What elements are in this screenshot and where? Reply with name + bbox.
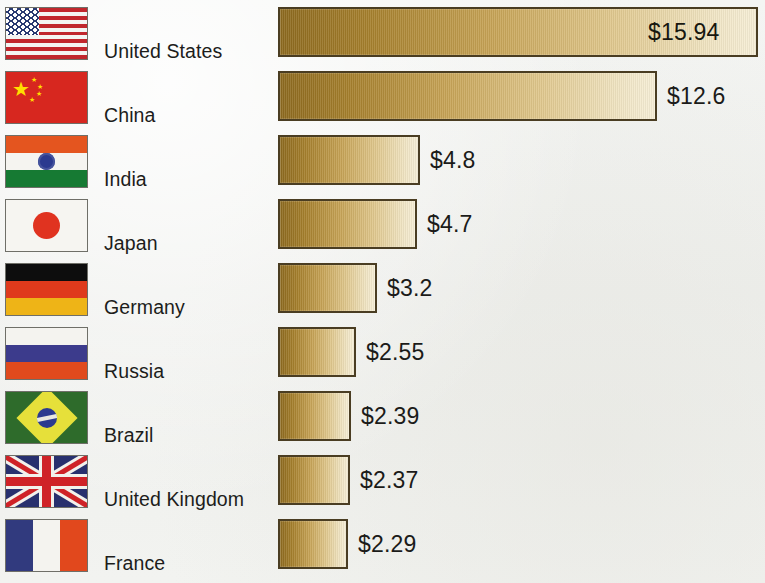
country-label: United Kingdom	[104, 488, 244, 511]
country-label: Japan	[104, 232, 158, 255]
value-label: $2.39	[361, 403, 420, 430]
chart-row: United States$15.94	[0, 6, 765, 70]
chart-row: Russia$2.55	[0, 326, 765, 390]
flag-japan-icon	[5, 199, 88, 252]
value-label: $12.6	[667, 83, 726, 110]
country-label: China	[104, 104, 155, 127]
value-label: $4.7	[427, 211, 473, 238]
country-label: India	[104, 168, 147, 191]
value-bar	[278, 135, 420, 185]
value-bar	[278, 519, 348, 569]
flag-russia-icon	[5, 327, 88, 380]
chart-row: India$4.8	[0, 134, 765, 198]
chart-row: ★★★★★China$12.6	[0, 70, 765, 134]
flag-india-icon	[5, 135, 88, 188]
country-label: United States	[104, 40, 222, 63]
value-bar	[278, 71, 657, 121]
value-label: $3.2	[387, 275, 433, 302]
chart-row: United Kingdom$2.37	[0, 454, 765, 518]
flag-brazil-icon	[5, 391, 88, 444]
country-label: Russia	[104, 360, 164, 383]
flag-france-icon	[5, 519, 88, 572]
chart-row: Germany$3.2	[0, 262, 765, 326]
chart-row: Brazil$2.39	[0, 390, 765, 454]
value-label: $2.29	[358, 531, 417, 558]
country-value-bar-chart: United States$15.94★★★★★China$12.6India$…	[0, 0, 765, 583]
flag-united-states-icon	[5, 7, 88, 60]
value-bar	[278, 263, 377, 313]
chart-row: Japan$4.7	[0, 198, 765, 262]
value-bar	[278, 391, 351, 441]
value-bar	[278, 199, 417, 249]
country-label: Germany	[104, 296, 185, 319]
value-bar	[278, 455, 350, 505]
value-bar	[278, 327, 356, 377]
country-label: France	[104, 552, 165, 575]
value-label: $2.55	[366, 339, 425, 366]
country-label: Brazil	[104, 424, 153, 447]
flag-united-kingdom-icon	[5, 455, 88, 508]
chart-row: France$2.29	[0, 518, 765, 582]
value-label: $2.37	[360, 467, 419, 494]
flag-china-icon: ★★★★★	[5, 71, 88, 124]
value-label: $4.8	[430, 147, 476, 174]
flag-germany-icon	[5, 263, 88, 316]
value-label: $15.94	[648, 19, 720, 46]
